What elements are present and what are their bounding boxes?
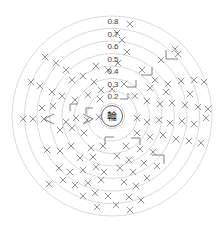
scatter-point [81,130,87,136]
scatter-point [178,78,184,84]
scatter-point [101,169,107,175]
scatter-point [68,143,74,149]
scatter-point [100,143,106,149]
bracket-mark [44,114,54,124]
scatter-point [205,106,211,112]
scatter-point [126,194,132,200]
scatter-point [105,193,111,199]
scatter-point [41,116,47,122]
scatter-point [67,169,73,175]
scatter-point [93,63,99,69]
scatter-point [139,67,145,73]
bracket-mark [70,104,78,111]
scatter-point [154,163,160,169]
scatter-point [169,100,175,106]
scatter-point [53,60,59,66]
polar-plot-svg: 0.80.70.60.50.40.30.20.1 輪 [0,0,224,232]
scatter-point [50,103,56,109]
scatter-point [186,138,192,144]
scatter-point [57,148,63,154]
scatter-point [187,91,193,97]
scatter-point [141,160,147,166]
polar-scatter-chart: 0.80.70.60.50.40.30.20.1 輪 [0,0,224,232]
scatter-point [56,165,62,171]
scatter-point [130,169,136,175]
center-hub-label: 輪 [107,110,117,122]
scatter-point [59,93,65,99]
scatter-point [132,93,138,99]
scatter-point [144,175,150,181]
scatter-point [138,197,144,203]
scatter-point [63,67,69,73]
bracket-mark [166,50,178,59]
scatter-point [119,37,125,43]
scatter-point [85,92,91,98]
radial-axis-labels: 0.80.70.60.50.40.30.20.1 [107,17,119,114]
scatter-point [195,104,201,110]
scatter-point [98,87,104,93]
scatter-point [198,140,204,146]
scatter-point [72,97,78,103]
scatter-point [126,157,132,163]
scatter-point [182,102,188,108]
scatter-point [147,85,153,91]
scatter-point [134,130,140,136]
scatter-point [63,119,69,125]
scatter-point [203,115,209,121]
scatter-point [160,132,166,138]
scatter-point [90,154,96,160]
scatter-point [121,179,127,185]
scatter-point [77,155,83,161]
scatter-point [150,149,156,155]
scatter-point [85,180,91,186]
scatter-point [92,190,98,196]
scatter-point [28,79,34,85]
center-hub: 輪 [102,106,123,127]
scatter-point [124,49,130,55]
scatter-point [73,115,79,121]
scatter-point [123,143,129,149]
scatter-point [80,73,86,79]
scatter-point [127,21,133,27]
scatter-point [121,81,127,87]
scatter-point [158,57,164,63]
scatter-point [39,105,45,111]
scatter-point [37,83,43,89]
scatter-point [20,116,26,122]
scatter-point [93,164,99,170]
scatter-point [69,125,75,131]
scatter-point [173,136,179,142]
bracket-mark [131,138,140,145]
scatter-point [137,146,143,152]
scatter-point [60,177,66,183]
radial-tick-label-0.7: 0.7 [107,30,119,39]
scatter-point [167,120,173,126]
radial-tick-label-0.2: 0.2 [107,92,119,101]
scatter-point [117,165,123,171]
scatter-point [72,182,78,188]
scatter-point [127,207,133,213]
scatter-point [88,145,94,151]
scatter-point [156,117,162,123]
scatter-point [114,153,120,159]
scatter-point [94,204,100,210]
scatter-point [191,121,197,127]
scatter-point [163,89,169,95]
scatter-point [97,96,103,102]
radial-tick-label-0.6: 0.6 [107,42,119,51]
radial-tick-label-0.5: 0.5 [107,55,119,64]
radial-tick-label-0.3: 0.3 [107,80,119,89]
scatter-point [30,116,36,122]
radial-tick-label-0.4: 0.4 [107,67,119,76]
scatter-point [152,77,158,83]
scatter-point [57,127,63,133]
scatter-point [179,118,185,124]
scatter-point [113,202,119,208]
radial-tick-label-0.8: 0.8 [107,17,119,26]
scatter-point [69,77,75,83]
scatter-point [46,181,52,187]
scatter-point [147,134,153,140]
